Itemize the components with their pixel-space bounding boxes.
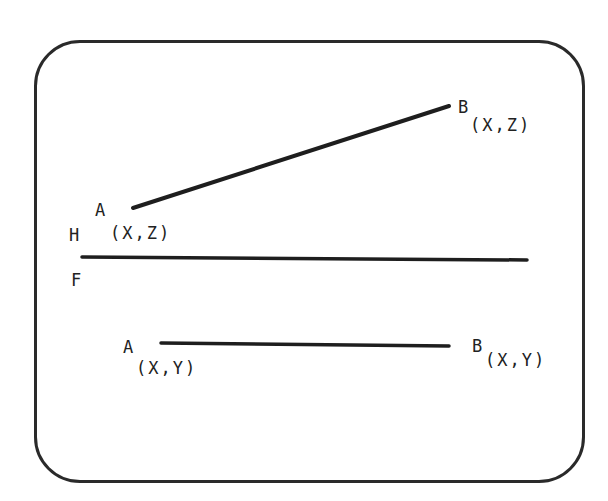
label-f: F <box>71 272 82 289</box>
line-ab-xz <box>133 106 449 208</box>
subscript-a-xz: (X,Z) <box>110 225 171 242</box>
label-b-xz: B <box>458 99 469 116</box>
label-h: H <box>69 227 80 244</box>
label-a-xz: A <box>95 202 106 219</box>
reference-line-hf <box>82 257 527 260</box>
diagram-lines <box>0 0 608 501</box>
subscript-a-xy: (X,Y) <box>136 360 197 377</box>
label-a-xy: A <box>123 339 134 356</box>
subscript-b-xz: (X,Z) <box>470 117 531 134</box>
label-b-xy: B <box>472 338 483 355</box>
line-ab-xy <box>161 343 449 346</box>
subscript-b-xy: (X,Y) <box>485 352 546 369</box>
